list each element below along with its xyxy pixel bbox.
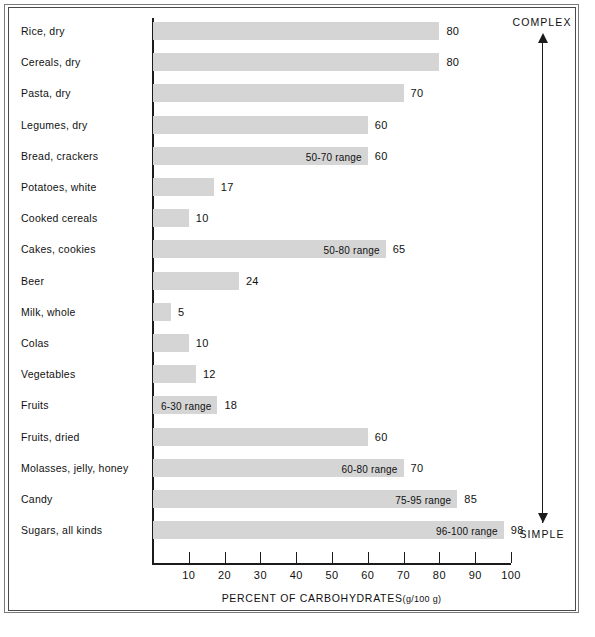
x-axis-tick-label: 50 <box>312 569 352 581</box>
bar-value-label: 85 <box>464 490 477 508</box>
bar-value-label: 60 <box>375 147 388 165</box>
bar-value-label: 12 <box>203 365 216 383</box>
bar-row-label: Cooked cereals <box>21 209 146 227</box>
x-axis-tick-label: 90 <box>455 569 495 581</box>
x-axis-tick <box>189 552 190 563</box>
annotation-complex-label: COMPLEX <box>492 16 592 28</box>
arrow-down-icon <box>538 513 548 523</box>
bar-value-label: 70 <box>411 459 424 477</box>
bar-range-label: 50-80 range <box>324 242 386 260</box>
bar-row-label: Molasses, jelly, honey <box>21 459 146 477</box>
bar-row: Potatoes, white17 <box>0 178 595 196</box>
bar-row-label: Sugars, all kinds <box>21 521 146 539</box>
x-axis-tick-label: 40 <box>276 569 316 581</box>
x-axis-tick <box>439 552 440 563</box>
bar-row-label: Candy <box>21 490 146 508</box>
x-axis-tick <box>225 552 226 563</box>
bar-value-label: 10 <box>196 334 209 352</box>
bar-row: Colas10 <box>0 334 595 352</box>
bar-row-label: Cakes, cookies <box>21 240 146 258</box>
bar-row-label: Beer <box>21 272 146 290</box>
x-axis-tick-label: 30 <box>240 569 280 581</box>
bar-range-label: 75-95 range <box>395 492 457 510</box>
bar-range-label: 60-80 range <box>341 461 403 479</box>
bar-row-label: Milk, whole <box>21 303 146 321</box>
x-axis-tick-label: 10 <box>169 569 209 581</box>
bar-range-label: 6-30 range <box>161 398 217 416</box>
bar-row: Molasses, jelly, honey60-80 range70 <box>0 459 595 477</box>
bar-row-label: Rice, dry <box>21 22 146 40</box>
bar-value-label: 80 <box>446 22 459 40</box>
bar <box>153 22 439 40</box>
bar: 50-80 range <box>153 240 386 258</box>
plot-area: 102030405060708090100 Rice, dry80Cereals… <box>0 0 595 637</box>
bar-row: Pasta, dry70 <box>0 84 595 102</box>
bar <box>153 53 439 71</box>
x-axis-tick-label: 70 <box>384 569 424 581</box>
bar-row: Legumes, dry60 <box>0 116 595 134</box>
bar-value-label: 24 <box>246 272 259 290</box>
x-axis-tick-label: 60 <box>348 569 388 581</box>
x-axis-tick <box>332 552 333 563</box>
bar-row-label: Fruits, dried <box>21 428 146 446</box>
bar-value-label: 60 <box>375 428 388 446</box>
bar <box>153 303 171 321</box>
x-axis-tick <box>511 552 512 563</box>
annotation-simple-label: SIMPLE <box>492 528 592 540</box>
x-axis-tick <box>296 552 297 563</box>
x-axis-tick <box>368 552 369 563</box>
bar-value-label: 18 <box>224 396 237 414</box>
bar-row: Fruits6-30 range18 <box>0 396 595 414</box>
bar-value-label: 60 <box>375 116 388 134</box>
bar-row: Fruits, dried60 <box>0 428 595 446</box>
bar-value-label: 80 <box>446 53 459 71</box>
bar-row: Cakes, cookies50-80 range65 <box>0 240 595 258</box>
bar-row-label: Legumes, dry <box>21 116 146 134</box>
x-axis-title: PERCENT OF CARBOHYDRATES(g/100 g) <box>152 592 511 604</box>
bar <box>153 428 368 446</box>
bar-row-label: Potatoes, white <box>21 178 146 196</box>
bar <box>153 365 196 383</box>
bar <box>153 209 189 227</box>
bar: 50-70 range <box>153 147 368 165</box>
complex-simple-axis-line <box>542 40 543 523</box>
bar: 75-95 range <box>153 490 457 508</box>
bar-range-label: 50-70 range <box>306 149 368 167</box>
bar-row: Bread, crackers50-70 range60 <box>0 147 595 165</box>
bar-row-label: Fruits <box>21 396 146 414</box>
bar-row: Milk, whole5 <box>0 303 595 321</box>
bar-row: Candy75-95 range85 <box>0 490 595 508</box>
x-axis-title-text: PERCENT OF CARBOHYDRATES <box>222 592 403 604</box>
bar-row: Beer24 <box>0 272 595 290</box>
bar <box>153 116 368 134</box>
bar <box>153 84 404 102</box>
bar-value-label: 5 <box>178 303 184 321</box>
x-axis-line <box>152 563 511 565</box>
bar: 6-30 range <box>153 396 217 414</box>
x-axis-tick <box>404 552 405 563</box>
bar: 60-80 range <box>153 459 404 477</box>
bar-value-label: 70 <box>411 84 424 102</box>
bar <box>153 272 239 290</box>
bar-row-label: Cereals, dry <box>21 53 146 71</box>
bar-row-label: Pasta, dry <box>21 84 146 102</box>
x-axis-tick-label: 80 <box>419 569 459 581</box>
bar-value-label: 65 <box>393 240 406 258</box>
carbohydrate-bar-chart-figure: 102030405060708090100 Rice, dry80Cereals… <box>0 0 595 637</box>
x-axis-tick-label: 20 <box>205 569 245 581</box>
x-axis-tick <box>475 552 476 563</box>
bar-row-label: Colas <box>21 334 146 352</box>
bar-row-label: Vegetables <box>21 365 146 383</box>
x-axis-tick <box>260 552 261 563</box>
bar: 96-100 range <box>153 521 504 539</box>
bar-value-label: 17 <box>221 178 234 196</box>
bar <box>153 178 214 196</box>
bar-row: Cooked cereals10 <box>0 209 595 227</box>
x-axis-title-units: (g/100 g) <box>403 594 442 604</box>
bar-row-label: Bread, crackers <box>21 147 146 165</box>
x-axis-tick-label: 100 <box>491 569 531 581</box>
bar-row: Vegetables12 <box>0 365 595 383</box>
arrow-up-icon <box>538 33 548 43</box>
bar-row: Cereals, dry80 <box>0 53 595 71</box>
bar-value-label: 10 <box>196 209 209 227</box>
